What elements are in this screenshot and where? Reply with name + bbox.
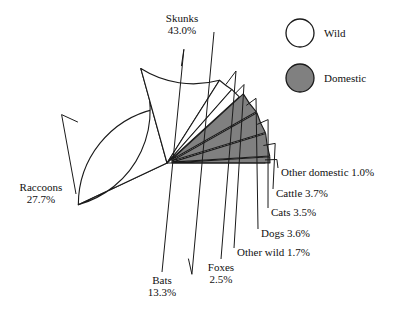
slice-label-raccoons-value: 27.7%: [4, 193, 78, 205]
legend-swatch-wild: [286, 19, 314, 47]
slice-label-skunks-value: 43.0%: [140, 24, 224, 36]
legend-label-wild: Wild: [324, 27, 346, 39]
slice-label-bats-value: 13.3%: [134, 286, 190, 298]
slice-label-cattle: Cattle 3.7%: [276, 187, 328, 199]
slice-label-bats: Bats 13.3%: [134, 274, 190, 298]
slice-label-other-domestic: Other domestic 1.0%: [281, 166, 374, 178]
legend-label-domestic: Domestic: [324, 72, 366, 84]
slice-label-raccoons: Raccoons 27.7%: [4, 181, 78, 205]
slice-label-bats-name: Bats: [152, 274, 172, 286]
slice-label-foxes-value: 2.5%: [196, 273, 246, 285]
pie-chart-figure: Wild Domestic Skunks 43.0% Raccoons 27.7…: [0, 0, 399, 312]
slice-label-foxes: Foxes 2.5%: [196, 261, 246, 285]
slice-label-skunks: Skunks 43.0%: [140, 12, 224, 36]
legend-swatch-domestic: [286, 64, 314, 92]
slice-label-cats: Cats 3.5%: [271, 206, 316, 218]
slice-label-foxes-name: Foxes: [208, 261, 234, 273]
slice-label-other-wild: Other wild 1.7%: [237, 246, 310, 258]
slice-label-raccoons-name: Raccoons: [20, 181, 63, 193]
slice-label-dogs: Dogs 3.6%: [261, 227, 310, 239]
slice-label-skunks-name: Skunks: [166, 12, 198, 24]
